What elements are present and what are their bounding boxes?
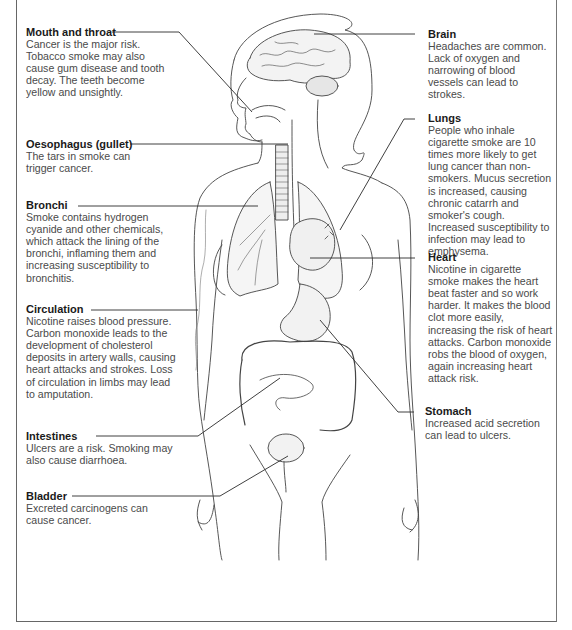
label-body: Headaches are common. Lack of oxygen and… [428,40,553,100]
large-intestine [242,341,356,431]
label-stomach: Stomach Increased acid secretion can lea… [425,405,551,441]
cerebellum [306,76,338,96]
label-title: Intestines [26,430,176,442]
label-title: Circulation [26,303,176,315]
lung-left [227,182,278,296]
label-body: The tars in smoke can trigger cancer. [26,150,156,174]
label-title: Bladder [26,490,176,502]
label-lungs: Lungs People who inhale cigarette smoke … [428,112,554,257]
label-circulation: Circulation Nicotine raises blood pressu… [26,303,176,400]
torso-right [382,183,419,560]
label-title: Brain [428,28,553,40]
label-body: Nicotine raises blood pressure. Carbon m… [26,315,176,400]
label-title: Stomach [425,405,551,417]
label-title: Bronchi [26,199,176,211]
label-mouth-and-throat: Mouth and throat Cancer is the major ris… [26,26,166,99]
label-title: Oesophagus (gullet) [26,138,156,150]
label-body: Cancer is the major risk. Tobacco smoke … [26,38,166,98]
label-title: Lungs [428,112,554,124]
label-body: Increased acid secretion can lead to ulc… [425,417,551,441]
label-intestines: Intestines Ulcers are a risk. Smoking ma… [26,430,176,466]
label-body: People who inhale cigarette smoke are 10… [428,124,554,257]
label-body: Smoke contains hydrogen cyanide and othe… [26,211,176,284]
label-title: Heart [428,251,554,263]
label-heart: Heart Nicotine in cigarette smoke makes … [428,251,554,384]
label-body: Excreted carcinogens can cause cancer. [26,502,176,526]
label-bladder: Bladder Excreted carcinogens can cause c… [26,490,176,526]
label-title: Mouth and throat [26,26,166,38]
heart [290,219,335,271]
label-bronchi: Bronchi Smoke contains hydrogen cyanide … [26,199,176,284]
label-oesophagus: Oesophagus (gullet) The tars in smoke ca… [26,138,156,174]
brain [247,30,350,83]
label-body: Ulcers are a risk. Smoking may also caus… [26,442,176,466]
leader-lungs [340,119,415,230]
trachea [276,145,288,220]
label-brain: Brain Headaches are common. Lack of oxyg… [428,28,553,101]
leader-stomach [320,320,414,412]
label-body: Nicotine in cigarette smoke makes the he… [428,263,554,384]
bladder [268,434,304,462]
